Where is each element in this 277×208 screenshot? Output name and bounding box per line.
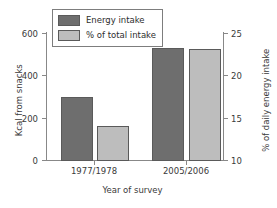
y-axis-left-title: Kcal from snacks xyxy=(15,50,24,150)
y-axis-left-line xyxy=(46,32,47,161)
legend-item-percent-total-intake: % of total intake xyxy=(58,29,156,42)
y-tick-label-right-0: 10 xyxy=(231,157,242,166)
y-axis-right-title: % of daily energy intake xyxy=(262,35,271,165)
x-axis-title: Year of survey xyxy=(0,186,265,195)
x-tick-1 xyxy=(186,161,187,165)
y-tick-right-2 xyxy=(224,75,228,76)
chart-figure: 0 200 400 600 10 15 20 25 1977/1978 2005… xyxy=(0,0,277,208)
y-tick-right-3 xyxy=(224,33,228,34)
y-tick-left-3 xyxy=(42,33,46,34)
legend-label-energy-intake: Energy intake xyxy=(86,16,145,25)
y-tick-label-left-2: 400 xyxy=(22,72,38,81)
y-tick-left-2 xyxy=(42,75,46,76)
legend-label-percent-total-intake: % of total intake xyxy=(86,31,156,40)
x-tick-0 xyxy=(94,161,95,165)
y-tick-right-0 xyxy=(224,160,228,161)
bar-percent-total-intake-2005 xyxy=(189,49,221,161)
bar-energy-intake-2005 xyxy=(152,48,184,161)
y-tick-left-0 xyxy=(42,160,46,161)
y-tick-right-1 xyxy=(224,118,228,119)
legend: Energy intake % of total intake xyxy=(52,9,163,47)
y-tick-label-left-0: 0 xyxy=(33,157,38,166)
x-tick-label-0: 1977/1978 xyxy=(71,167,117,176)
legend-item-energy-intake: Energy intake xyxy=(58,14,156,27)
y-tick-label-right-2: 20 xyxy=(231,72,242,81)
y-tick-label-right-3: 25 xyxy=(231,30,242,39)
bar-percent-total-intake-1977 xyxy=(97,126,129,161)
legend-swatch-percent-total-intake xyxy=(58,30,80,41)
y-tick-label-left-1: 200 xyxy=(22,115,38,124)
legend-swatch-energy-intake xyxy=(58,15,80,26)
bar-energy-intake-1977 xyxy=(61,97,93,161)
y-tick-label-right-1: 15 xyxy=(231,115,242,124)
y-axis-right-line xyxy=(223,32,224,161)
y-tick-label-left-3: 600 xyxy=(22,30,38,39)
x-tick-label-1: 2005/2006 xyxy=(163,167,209,176)
y-tick-left-1 xyxy=(42,118,46,119)
